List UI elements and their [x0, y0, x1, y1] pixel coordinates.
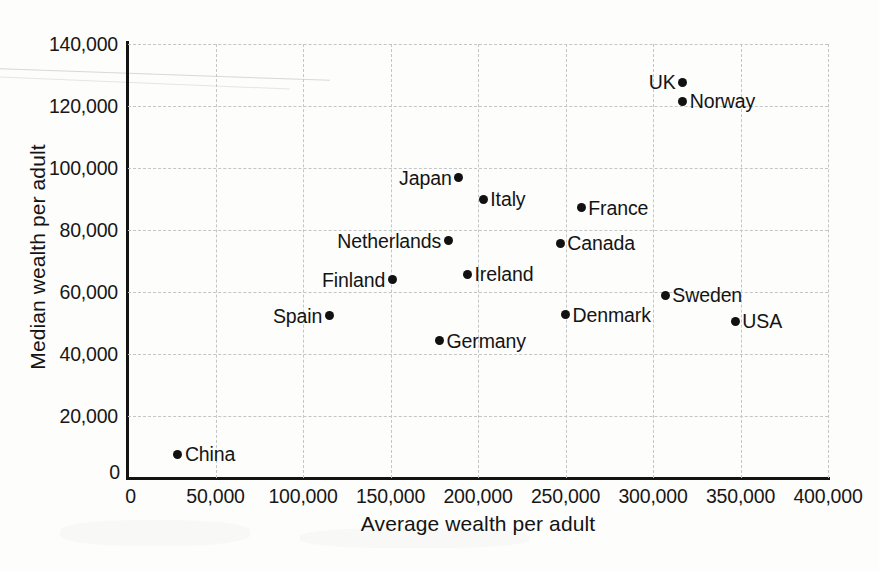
data-point-label: Sweden [672, 284, 742, 307]
x-tick-label: 200,000 [443, 485, 512, 508]
y-tick-label: 100,000 [49, 157, 118, 180]
gridline-vertical [391, 44, 392, 478]
data-point-label: Norway [690, 90, 756, 113]
data-point-label: Canada [567, 232, 635, 255]
data-point-marker[interactable] [173, 450, 182, 459]
x-tick-label: 300,000 [618, 485, 687, 508]
data-point-marker[interactable] [435, 336, 444, 345]
gridline-vertical [653, 44, 654, 478]
data-point-label: Germany [447, 329, 527, 352]
data-point-label: USA [742, 310, 782, 333]
data-point-marker[interactable] [561, 310, 570, 319]
y-tick-label: 80,000 [60, 219, 118, 242]
y-tick-label: 0 [109, 461, 120, 484]
gridline-vertical [566, 44, 567, 478]
gridline-horizontal [128, 416, 828, 417]
x-axis-line [126, 477, 830, 480]
y-axis-line [126, 41, 129, 478]
data-point-label: Finland [322, 268, 385, 291]
x-axis-title: Average wealth per adult [128, 512, 828, 536]
data-point-label: China [185, 443, 235, 466]
y-axis-title: Median wealth per adult [26, 127, 50, 387]
data-point-marker[interactable] [325, 311, 334, 320]
data-point-marker[interactable] [556, 239, 565, 248]
data-point-marker[interactable] [731, 317, 740, 326]
gridline-vertical [216, 44, 217, 478]
y-tick-label: 120,000 [49, 95, 118, 118]
y-tick-label: 140,000 [49, 33, 118, 56]
plot-area: 020,00040,00060,00080,000100,000120,0001… [128, 44, 828, 478]
data-point-label: UK [649, 71, 676, 94]
x-tick-label: 250,000 [531, 485, 600, 508]
data-point-label: Netherlands [337, 229, 441, 252]
data-point-label: Italy [490, 188, 525, 211]
gridline-vertical [478, 44, 479, 478]
x-tick-label: 350,000 [706, 485, 775, 508]
gridline-horizontal [128, 168, 828, 169]
data-point-label: Spain [273, 304, 322, 327]
data-point-label: France [588, 196, 648, 219]
y-tick-label: 40,000 [60, 343, 118, 366]
x-tick-label: 400,000 [793, 485, 862, 508]
x-tick-label: 100,000 [268, 485, 337, 508]
data-point-marker[interactable] [463, 270, 472, 279]
data-point-marker[interactable] [678, 97, 687, 106]
data-point-marker[interactable] [678, 78, 687, 87]
gridline-vertical [303, 44, 304, 478]
gridline-horizontal [128, 44, 828, 45]
data-point-marker[interactable] [444, 236, 453, 245]
gridline-horizontal [128, 230, 828, 231]
data-point-marker[interactable] [388, 275, 397, 284]
y-tick-label: 20,000 [60, 405, 118, 428]
data-point-label: Japan [399, 166, 452, 189]
gridline-vertical [828, 44, 829, 478]
gridline-horizontal [128, 354, 828, 355]
x-tick-label: 0 [125, 485, 136, 508]
data-point-label: Denmark [573, 303, 651, 326]
data-point-marker[interactable] [454, 173, 463, 182]
data-point-marker[interactable] [661, 291, 670, 300]
scatter-plot-figure: 020,00040,00060,00080,000100,000120,0001… [0, 0, 879, 572]
y-tick-label: 60,000 [60, 281, 118, 304]
data-point-marker[interactable] [577, 203, 586, 212]
data-point-label: Ireland [475, 263, 534, 286]
data-point-marker[interactable] [479, 195, 488, 204]
x-tick-label: 50,000 [186, 485, 244, 508]
x-tick-label: 150,000 [356, 485, 425, 508]
